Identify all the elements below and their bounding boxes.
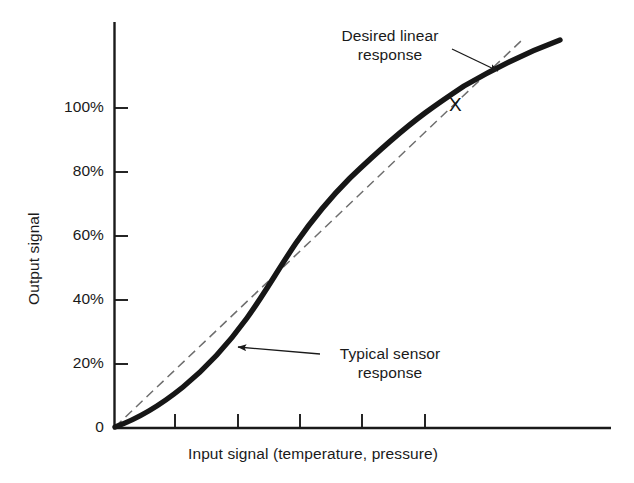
sensor-response-figure: 0 20% 40% 60% 80% 100% Output signal Inp…: [0, 0, 634, 483]
y-tick-label-100: 100%: [30, 98, 104, 116]
annotation-desired-line-2: response: [330, 45, 450, 64]
y-axis-title: Output signal: [25, 212, 43, 305]
y-tick-label-0: 0: [30, 418, 104, 436]
y-axis-ticks: [115, 108, 128, 364]
typical-sensor-response-arrow: [238, 347, 320, 354]
annotation-desired-line-1: Desired linear: [330, 26, 450, 45]
y-tick-label-20: 20%: [30, 354, 104, 372]
annotation-typical-line-1: Typical sensor: [330, 344, 450, 363]
x-axis-title: Input signal (temperature, pressure): [188, 445, 438, 463]
y-tick-label-80: 80%: [30, 162, 104, 180]
desired-linear-response-arrow: [452, 49, 498, 71]
annotation-typical-line-2: response: [330, 363, 450, 382]
intersection-x-marker: X: [449, 94, 462, 116]
annotation-desired-linear-response: Desired linear response: [330, 26, 450, 65]
x-axis-ticks: [175, 414, 425, 427]
annotation-typical-sensor-response: Typical sensor response: [330, 344, 450, 383]
